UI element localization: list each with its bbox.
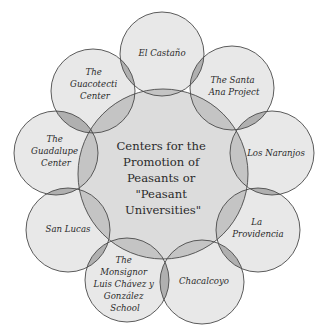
label-el-castano: El Castaño [137, 48, 185, 58]
label-los-naranjos: Los Naranjos [246, 148, 305, 158]
center-label-line: Promotion of [123, 155, 200, 169]
center-label-line: Centers for the [116, 139, 206, 153]
label-san-lucas: San Lucas [46, 224, 91, 234]
center-label-line: "Peasant [135, 187, 187, 201]
diagram-canvas: Centers for the Promotion of Peasants or… [0, 0, 324, 332]
center-label: Centers for the Promotion of Peasants or… [116, 139, 209, 217]
center-label-line: Peasants or [127, 171, 196, 185]
center-label-line: Universities" [125, 203, 201, 217]
label-chacalcoyo: Chacalcoyo [179, 276, 229, 286]
